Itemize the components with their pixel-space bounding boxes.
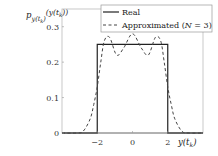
y-tick-label: 0.2 — [46, 58, 59, 67]
real-series-line — [62, 44, 203, 133]
legend: Real Approximated (N = 3) — [101, 5, 212, 32]
legend-real-label: Real — [122, 8, 141, 17]
legend-approx-label: Approximated (N = 3) — [121, 21, 212, 30]
x-tick-label: 0 — [130, 138, 135, 147]
x-tick-label: 2 — [165, 138, 170, 147]
y-ticks: 00.10.20.3 — [46, 23, 64, 138]
y-tick-label: 0.1 — [46, 94, 59, 103]
chart: 00.10.20.3 −202 py(tk)(y(tk)) y(tk) Real… — [0, 0, 218, 156]
x-axis-label: y(tk) — [177, 137, 197, 148]
y-tick-label: 0.3 — [46, 23, 59, 32]
y-tick-label: 0 — [54, 129, 59, 138]
approximated-series-line — [62, 34, 203, 133]
x-tick-label: −2 — [91, 138, 103, 147]
